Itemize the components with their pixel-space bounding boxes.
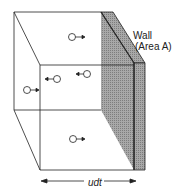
- diagram-canvas: Wall (Area A) udt: [0, 0, 193, 191]
- distance-label: udt: [86, 177, 104, 188]
- particle-icon: [76, 71, 91, 78]
- wall-front-face: [134, 63, 145, 170]
- particle-icon: [69, 34, 86, 41]
- particle-icon: [45, 76, 61, 83]
- particle-icon: [24, 87, 40, 94]
- particle-icons: [24, 34, 91, 143]
- wall-label: Wall: [133, 30, 152, 41]
- area-label: (Area A): [135, 41, 172, 52]
- particle-icon: [70, 136, 86, 143]
- box-diagram: [0, 0, 193, 191]
